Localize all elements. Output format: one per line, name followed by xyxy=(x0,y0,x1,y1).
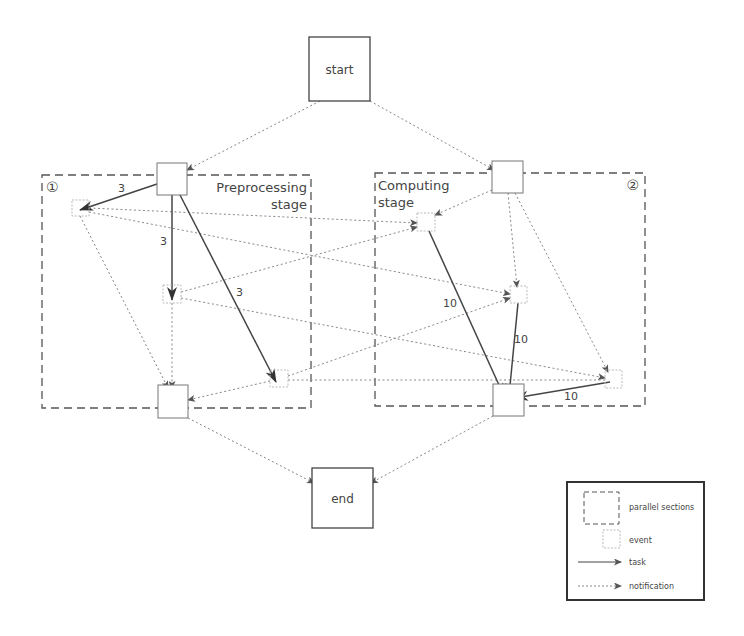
fork-node-section-2 xyxy=(492,161,523,193)
task-weight: 10 xyxy=(514,333,528,346)
task-weight: 3 xyxy=(118,182,125,195)
task-weight: 3 xyxy=(236,286,243,299)
task-weight: 10 xyxy=(564,390,578,403)
section-1-marker: ① xyxy=(46,179,59,195)
legend-task-label: task xyxy=(629,558,646,567)
legend-event-label: event xyxy=(629,536,652,545)
start-label: start xyxy=(326,63,354,77)
legend-parallel-label: parallel sections xyxy=(629,503,694,512)
fork-node-section-1 xyxy=(157,163,187,195)
event-node xyxy=(270,370,288,387)
task-edges xyxy=(80,184,610,398)
event-node xyxy=(417,213,435,231)
diagram-canvas: start end ① Preprocessing stage Computin… xyxy=(0,0,744,636)
legend-notification-label: notification xyxy=(629,582,674,591)
notification-edges xyxy=(80,101,608,483)
section-1-title: Preprocessing xyxy=(216,180,307,195)
section-2-marker: ② xyxy=(626,177,639,193)
join-node-section-2 xyxy=(493,384,524,416)
task-weight: 10 xyxy=(443,297,457,310)
end-label: end xyxy=(331,492,354,506)
join-node-section-1 xyxy=(158,385,188,418)
section-1-title-line2: stage xyxy=(271,197,307,212)
task-weight: 3 xyxy=(160,235,167,248)
section-2-title: Computing xyxy=(378,178,449,193)
event-node xyxy=(510,286,527,303)
event-node xyxy=(605,370,622,388)
section-2-title-line2: stage xyxy=(378,195,414,210)
legend: parallel sections event task notificatio… xyxy=(567,482,704,600)
